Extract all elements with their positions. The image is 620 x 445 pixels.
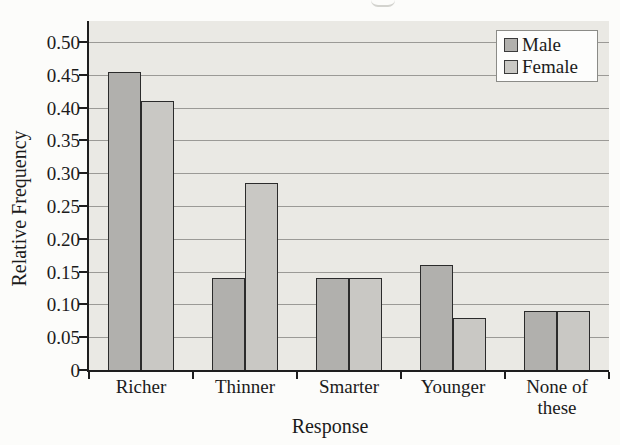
y-tick-label-0.40: 0.40 [26,98,80,119]
bar-female-smarter [349,278,382,370]
figure: Relative Frequency 00.050.100.150.200.25… [0,0,620,445]
y-tick-label-0.20: 0.20 [26,229,80,250]
bar-female-none-of-these [557,311,590,370]
legend: Male Female [496,30,598,82]
y-tick-label-0.45: 0.45 [26,65,80,86]
bar-male-none-of-these [524,311,557,370]
legend-label-male: Male [522,35,561,55]
category-label-none-of-these: None of these [515,376,599,418]
y-tick-label-0.10: 0.10 [26,294,80,315]
y-tick-label-0.05: 0.05 [26,327,80,348]
bar-female-richer [141,101,174,370]
y-tick-label-0.25: 0.25 [26,196,80,217]
female-color-swatch [504,60,518,74]
legend-item-male: Male [504,34,597,56]
y-tick-label-0.35: 0.35 [26,130,80,151]
bar-male-thinner [212,278,245,370]
category-label-smarter: Smarter [307,376,391,397]
scan-artifact [371,0,395,7]
male-color-swatch [504,38,518,52]
bar-male-richer [108,72,141,370]
category-label-richer: Richer [99,376,183,397]
y-tick-label-0.50: 0.50 [26,32,80,53]
category-label-younger: Younger [411,376,495,397]
bar-female-younger [453,318,486,370]
x-axis-line [87,370,609,372]
legend-label-female: Female [522,57,578,77]
legend-item-female: Female [504,56,597,78]
y-tick-label-0.15: 0.15 [26,262,80,283]
y-axis-line [87,21,89,372]
bar-male-younger [420,265,453,370]
bar-male-smarter [316,278,349,370]
y-tick-label-0: 0 [26,360,80,381]
y-tick-label-0.30: 0.30 [26,163,80,184]
category-label-thinner: Thinner [203,376,287,397]
bar-female-thinner [245,183,278,370]
x-axis-title: Response [240,415,420,438]
